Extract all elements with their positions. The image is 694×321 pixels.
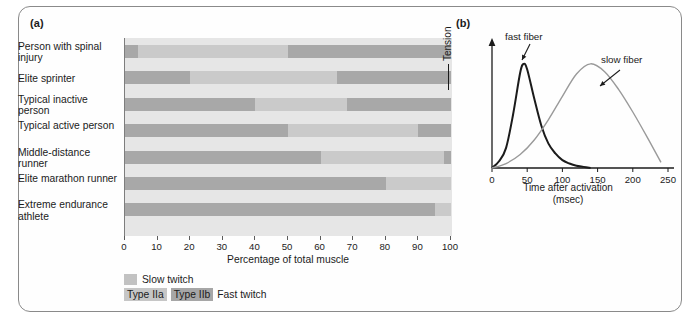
bar-segment-type-iia	[190, 71, 337, 84]
category-label: Elite marathon runner	[18, 173, 122, 184]
x-tick	[254, 236, 255, 240]
bar-segment-slow-twitch	[125, 71, 190, 84]
x-tick-label: 40	[249, 241, 260, 252]
category-label: Elite sprinter	[18, 73, 122, 84]
x-tick-labels: 0102030405060708090100	[124, 241, 464, 255]
b-y-axis-arrow	[489, 38, 496, 46]
x-tick-label: 90	[412, 241, 423, 252]
x-tick	[417, 236, 418, 240]
panel-a-stacked-bar-chart: Person with spinal injuryElite sprinterT…	[18, 38, 454, 308]
tension-curves-svg	[448, 38, 684, 188]
bar-segment-slow-twitch	[125, 45, 138, 58]
bar-row	[125, 151, 451, 164]
category-label: Typical inactive person	[18, 94, 122, 117]
b-x-title-line2: (msec)	[468, 194, 668, 206]
bar-segment-slow-twitch	[125, 203, 435, 216]
x-tick	[352, 236, 353, 240]
category-label: Person with spinal injury	[18, 41, 122, 64]
slow-twitch-label: Slow twitch	[142, 274, 194, 285]
bar-segment-type-iib	[337, 71, 451, 84]
type-iia-chip: Type IIa	[124, 288, 167, 301]
panel-b-line-chart: Tension fast fiber slow fiber 0501001502…	[448, 38, 684, 228]
slow-fiber-leader	[600, 70, 620, 86]
bar-segment-type-iia	[321, 151, 445, 164]
bar-segment-slow-twitch	[125, 98, 255, 111]
bar-segment-type-iib	[347, 98, 451, 111]
bar-segment-type-iia	[386, 177, 451, 190]
bar-segment-slow-twitch	[125, 124, 288, 137]
category-label: Extreme endurance athlete	[18, 199, 122, 222]
fast-fiber-leader	[522, 44, 530, 60]
b-x-axis-title: Time after activation (msec)	[468, 182, 668, 205]
legend-row-slow: Slow twitch	[124, 272, 444, 287]
x-tick-label: 100	[442, 241, 458, 252]
x-tick-label: 50	[282, 241, 293, 252]
x-tick	[189, 236, 190, 240]
fast-fiber-annotation: fast fiber	[505, 31, 543, 42]
x-tick	[320, 236, 321, 240]
bar-row	[125, 98, 451, 111]
bar-row	[125, 203, 451, 216]
x-tick	[385, 236, 386, 240]
tension-axis-title: Tension	[442, 27, 453, 90]
bar-segment-type-iib	[288, 45, 451, 58]
bar-row	[125, 45, 451, 58]
x-tick-label: 0	[121, 241, 126, 252]
bar-segment-type-iia	[255, 98, 346, 111]
bar-row	[125, 71, 451, 84]
x-tick-label: 80	[379, 241, 390, 252]
x-tick-label: 70	[347, 241, 358, 252]
x-tick	[222, 236, 223, 240]
bar-row	[125, 177, 451, 190]
x-tick-label: 20	[184, 241, 195, 252]
legend-row-fast: Type IIa Type IIb Fast twitch	[124, 287, 444, 302]
category-label: Typical active person	[18, 120, 122, 131]
panel-b-label: (b)	[456, 17, 470, 29]
bar-segment-type-iia	[288, 124, 418, 137]
fast-twitch-label: Fast twitch	[217, 289, 266, 300]
x-tick	[157, 236, 158, 240]
type-iib-chip: Type IIb	[171, 288, 214, 301]
bar-plot-area	[124, 38, 452, 236]
x-tick-label: 60	[314, 241, 325, 252]
x-axis-title: Percentage of total muscle	[124, 254, 452, 265]
bar-segment-slow-twitch	[125, 177, 386, 190]
fast-fiber-curve	[492, 64, 591, 168]
legend: Slow twitch Type IIa Type IIb Fast twitc…	[124, 272, 444, 302]
bar-segment-type-iib	[418, 124, 451, 137]
x-tick	[287, 236, 288, 240]
figure-container: (a) (b) Person with spinal injuryElite s…	[0, 0, 694, 321]
panel-a-label: (a)	[30, 17, 44, 29]
slow-twitch-swatch	[124, 274, 137, 285]
x-tick-label: 10	[151, 241, 162, 252]
category-label: Middle-distance runner	[18, 147, 122, 170]
bar-segment-slow-twitch	[125, 151, 321, 164]
x-tick	[124, 236, 125, 240]
slow-fiber-annotation: slow fiber	[601, 54, 642, 65]
bar-row	[125, 124, 451, 137]
bar-segment-type-iia	[138, 45, 288, 58]
slow-fiber-curve	[492, 64, 661, 168]
b-x-title-line1: Time after activation	[468, 182, 668, 194]
x-tick	[450, 236, 451, 240]
x-tick-label: 30	[216, 241, 227, 252]
